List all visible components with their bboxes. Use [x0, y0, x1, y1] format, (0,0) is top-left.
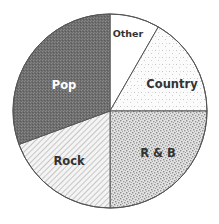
slice-label-country: Country	[146, 77, 198, 91]
slice-label-other: Other	[113, 28, 144, 39]
slice-label-rnb: R & B	[140, 146, 176, 160]
slice-label-rock: Rock	[53, 154, 85, 168]
pie-slices	[13, 14, 207, 208]
slice-label-pop: Pop	[52, 78, 77, 92]
pie-chart: Other Country R & B Rock Pop	[0, 0, 219, 224]
